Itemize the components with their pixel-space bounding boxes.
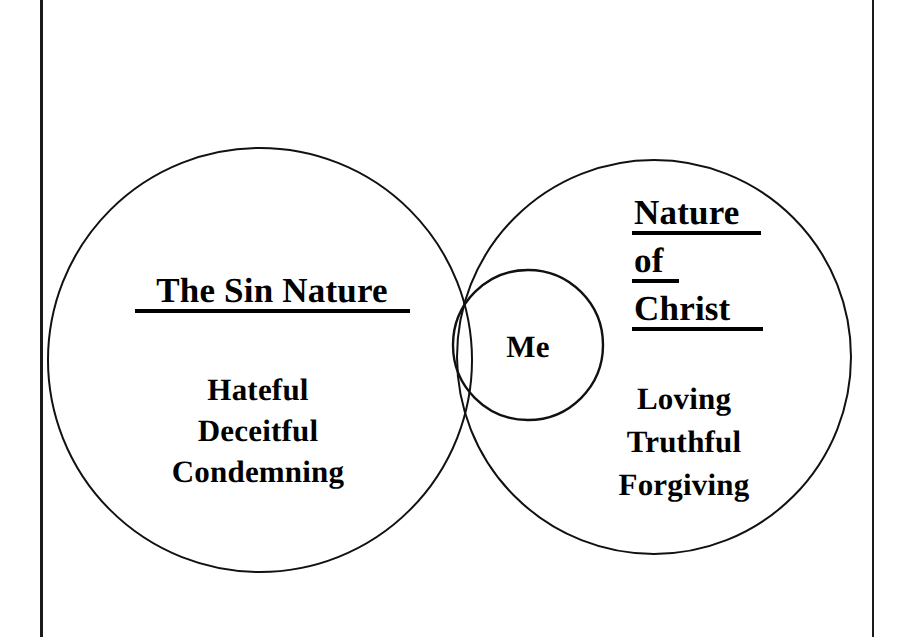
christ-trait-3: Forgiving bbox=[619, 467, 750, 502]
sin-nature-heading: The Sin Nature bbox=[156, 271, 388, 310]
sin-trait-3: Condemning bbox=[172, 454, 345, 489]
sin-trait-1: Hateful bbox=[207, 372, 308, 407]
christ-trait-2: Truthful bbox=[627, 424, 742, 459]
me-label: Me bbox=[506, 329, 550, 364]
sin-trait-2: Deceitful bbox=[198, 413, 319, 448]
christ-trait-1: Loving bbox=[637, 381, 732, 416]
venn-diagram: The Sin Nature Hateful Deceitful Condemn… bbox=[0, 0, 918, 637]
christ-heading-line-2: of bbox=[634, 241, 664, 280]
christ-heading-line-3: Christ bbox=[634, 289, 731, 328]
christ-heading-line-1: Nature bbox=[634, 193, 740, 232]
diagram-canvas: The Sin Nature Hateful Deceitful Condemn… bbox=[0, 0, 918, 637]
sin-nature-circle[interactable] bbox=[48, 148, 472, 572]
